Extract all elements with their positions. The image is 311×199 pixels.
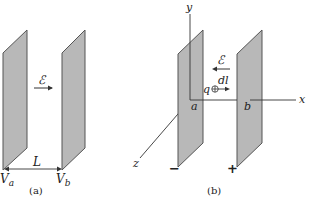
displacement-arrow bbox=[218, 87, 230, 91]
capacitor-diagram: ℰ L Va Vb (a) y x z ℰ q bbox=[0, 0, 311, 199]
displacement-label: dl bbox=[218, 74, 229, 87]
panel-b: y x z ℰ q dl a b − + (b) bbox=[132, 1, 306, 196]
plate-b-b bbox=[237, 30, 262, 167]
plate-b-a bbox=[178, 30, 203, 167]
plate-a-left bbox=[3, 30, 27, 170]
minus-sign: − bbox=[169, 161, 180, 176]
charge-label: q bbox=[203, 83, 210, 96]
plate-a-right bbox=[62, 30, 85, 170]
plate-label-a: a bbox=[191, 100, 198, 113]
field-label-a: ℰ bbox=[38, 73, 47, 87]
potential-va: Va bbox=[0, 172, 14, 188]
caption-b: (b) bbox=[207, 185, 221, 196]
z-axis-label: z bbox=[132, 157, 139, 170]
field-arrow-b bbox=[212, 67, 230, 72]
x-axis-label: x bbox=[299, 93, 306, 106]
caption-a: (a) bbox=[29, 185, 43, 196]
separation-label: L bbox=[32, 155, 41, 169]
field-label-b: ℰ bbox=[217, 53, 226, 67]
plate-label-b: b bbox=[244, 100, 251, 113]
plus-sign: + bbox=[227, 161, 238, 176]
potential-vb: Vb bbox=[56, 172, 71, 188]
panel-a: ℰ L Va Vb (a) bbox=[0, 30, 85, 196]
y-axis-label: y bbox=[185, 1, 193, 14]
